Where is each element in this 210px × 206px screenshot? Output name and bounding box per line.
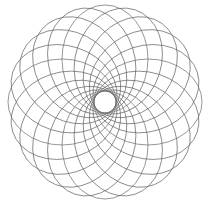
rosette-figure (0, 0, 210, 206)
